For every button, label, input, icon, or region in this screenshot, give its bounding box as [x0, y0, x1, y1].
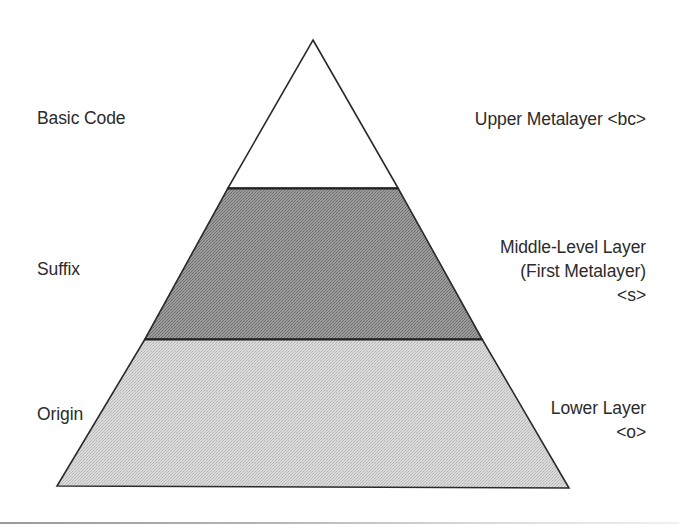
- right-label-middle-level-layer: Middle-Level Layer (First Metalayer) <s>: [500, 235, 646, 307]
- right-label-middle-level-layer-line-3: <s>: [500, 283, 646, 307]
- left-label-origin: Origin: [37, 402, 83, 426]
- pyramid-layer-bottom: [57, 339, 569, 488]
- right-label-lower-layer-line-2: <o>: [551, 420, 646, 444]
- right-label-lower-layer: Lower Layer <o>: [551, 396, 646, 444]
- right-label-upper-metalayer: Upper Metalayer <bc>: [475, 107, 646, 131]
- left-label-basic-code: Basic Code: [37, 106, 126, 130]
- left-label-origin-text: Origin: [37, 402, 83, 426]
- bottom-divider: [0, 522, 679, 524]
- left-label-suffix: Suffix: [37, 257, 80, 281]
- right-label-middle-level-layer-line-2: (First Metalayer): [500, 259, 646, 283]
- right-label-upper-metalayer-line-1: Upper Metalayer <bc>: [475, 107, 646, 131]
- pyramid-layer-middle: [145, 188, 482, 339]
- pyramid-layer-top: [228, 40, 398, 188]
- left-label-basic-code-text: Basic Code: [37, 106, 126, 130]
- right-label-lower-layer-line-1: Lower Layer: [551, 396, 646, 420]
- right-label-middle-level-layer-line-1: Middle-Level Layer: [500, 235, 646, 259]
- left-label-suffix-text: Suffix: [37, 257, 80, 281]
